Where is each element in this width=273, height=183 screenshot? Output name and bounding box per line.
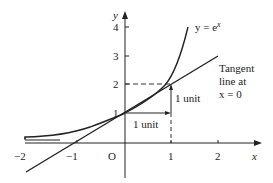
tangent-line (26, 56, 218, 172)
x-tick-label: −1 (66, 150, 78, 162)
x-axis (25, 140, 262, 146)
origin-label: O (108, 150, 116, 162)
horizontal-unit-arrow (126, 111, 171, 115)
y-axis (122, 11, 129, 178)
y-axis-arrow-icon (122, 11, 128, 19)
svg-text:x = 0: x = 0 (219, 88, 242, 100)
exponential-curve (25, 27, 188, 139)
horizontal-unit-label: 1 unit (133, 118, 158, 130)
vertical-unit-label: 1 unit (175, 92, 200, 104)
tangent-label: Tangent line at x = 0 (219, 62, 254, 100)
svg-text:line at: line at (219, 75, 246, 87)
arrowhead-right-icon (165, 111, 171, 115)
x-axis-arrow-icon (254, 140, 262, 146)
svg-text:Tangent: Tangent (219, 62, 254, 74)
y-tick-label: 1 (113, 107, 119, 119)
y-tick-label: 3 (113, 50, 119, 62)
y-axis-label: y (112, 9, 118, 21)
vertical-unit-arrow (169, 84, 173, 113)
y-tick-label: 4 (113, 21, 119, 33)
exponential-tangent-diagram: y x O −2 −1 1 2 1 2 3 4 y = ex Tangent l… (0, 0, 273, 183)
x-tick-label: −2 (14, 150, 26, 162)
x-tick-label: 2 (215, 150, 221, 162)
y-tick-label: 2 (113, 78, 119, 90)
x-axis-label: x (251, 150, 257, 162)
curve-label: y = ex (195, 20, 221, 33)
x-tick-label: 1 (168, 150, 174, 162)
